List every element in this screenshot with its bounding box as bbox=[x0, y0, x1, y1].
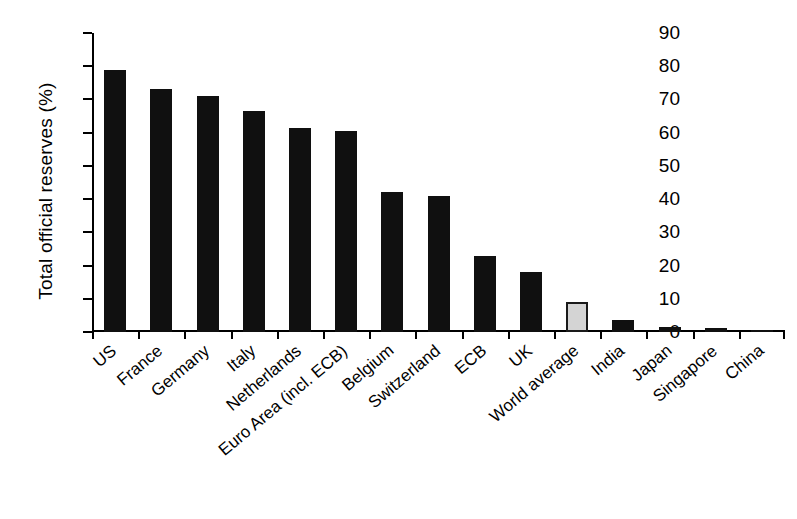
bar-germany bbox=[197, 96, 219, 332]
x-label-netherlands: Netherlands bbox=[222, 341, 305, 415]
x-tick-2 bbox=[184, 332, 186, 339]
bar-italy bbox=[243, 111, 265, 332]
y-tick-label-70: 70 bbox=[610, 89, 680, 108]
bar-belgium bbox=[381, 192, 403, 332]
bar-india bbox=[612, 320, 634, 332]
y-tick-label-50: 50 bbox=[610, 156, 680, 175]
x-label-euro-area-incl-ecb: Euro Area (incl. ECB) bbox=[215, 341, 352, 460]
y-tick-50 bbox=[83, 165, 92, 167]
bar-uk bbox=[520, 272, 542, 332]
x-label-us: US bbox=[90, 341, 121, 372]
x-label-france: France bbox=[114, 341, 167, 390]
bar-singapore bbox=[705, 328, 727, 332]
x-label-belgium: Belgium bbox=[339, 341, 399, 396]
x-label-uk: UK bbox=[506, 341, 537, 372]
bar-ecb bbox=[474, 256, 496, 332]
x-tick-10 bbox=[554, 332, 556, 339]
bar-us bbox=[104, 70, 126, 332]
x-tick-6 bbox=[369, 332, 371, 339]
plot-area: 0102030405060708090 bbox=[92, 33, 785, 332]
x-tick-3 bbox=[231, 332, 233, 339]
y-tick-20 bbox=[83, 265, 92, 267]
y-tick-0 bbox=[83, 331, 92, 333]
y-tick-10 bbox=[83, 298, 92, 300]
bar-china bbox=[751, 330, 773, 332]
y-tick-90 bbox=[83, 32, 92, 34]
y-tick-label-60: 60 bbox=[610, 123, 680, 142]
x-label-ecb: ECB bbox=[451, 341, 491, 379]
x-label-india: India bbox=[588, 341, 629, 380]
x-label-china: China bbox=[721, 341, 768, 385]
x-label-italy: Italy bbox=[223, 341, 260, 376]
x-label-switzerland: Switzerland bbox=[364, 341, 444, 413]
y-tick-40 bbox=[83, 198, 92, 200]
y-tick-label-20: 20 bbox=[610, 256, 680, 275]
x-tick-8 bbox=[462, 332, 464, 339]
bar-france bbox=[150, 89, 172, 332]
x-tick-14 bbox=[739, 332, 741, 339]
bar-switzerland bbox=[428, 196, 450, 332]
y-tick-label-30: 30 bbox=[610, 222, 680, 241]
y-axis-title: Total official reserves (%) bbox=[35, 41, 57, 341]
x-tick-7 bbox=[415, 332, 417, 339]
y-tick-label-90: 90 bbox=[610, 23, 680, 42]
x-tick-13 bbox=[693, 332, 695, 339]
x-tick-5 bbox=[323, 332, 325, 339]
y-tick-label-10: 10 bbox=[610, 289, 680, 308]
y-tick-label-80: 80 bbox=[610, 56, 680, 75]
x-tick-4 bbox=[277, 332, 279, 339]
x-tick-1 bbox=[138, 332, 140, 339]
bar-japan bbox=[659, 327, 681, 332]
x-tick-0 bbox=[92, 332, 94, 339]
x-label-germany: Germany bbox=[147, 341, 213, 401]
y-tick-70 bbox=[83, 98, 92, 100]
y-tick-label-40: 40 bbox=[610, 189, 680, 208]
bar-world-average bbox=[566, 302, 588, 332]
x-tick-11 bbox=[600, 332, 602, 339]
y-tick-60 bbox=[83, 132, 92, 134]
y-tick-80 bbox=[83, 65, 92, 67]
bar-euro-area-incl-ecb bbox=[335, 131, 357, 332]
bar-netherlands bbox=[289, 128, 311, 332]
chart-figure: Total official reserves (%) 010203040506… bbox=[0, 0, 797, 519]
x-tick-9 bbox=[508, 332, 510, 339]
y-tick-30 bbox=[83, 231, 92, 233]
x-label-singapore: Singapore bbox=[649, 341, 721, 406]
x-tick-end bbox=[783, 332, 785, 339]
x-label-japan: Japan bbox=[627, 341, 675, 386]
x-tick-12 bbox=[646, 332, 648, 339]
y-axis-line bbox=[92, 33, 94, 332]
x-label-world-average: World average bbox=[486, 341, 583, 427]
